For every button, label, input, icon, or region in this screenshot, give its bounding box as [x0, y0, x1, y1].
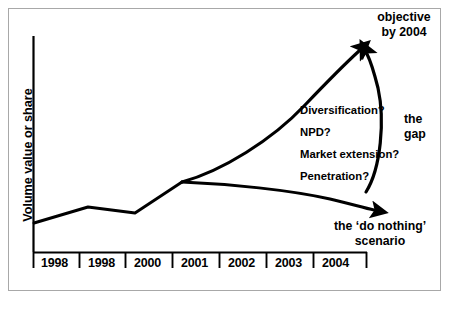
chart-page: Volume value or share 1998 1998 2000 200… [0, 0, 450, 310]
series-do-nothing-curve [182, 182, 374, 210]
strategy-label-market-extension: Market extension? [300, 148, 399, 161]
x-tick-label-7: 2004 [322, 256, 349, 271]
x-tick-label-5: 2002 [228, 256, 255, 271]
strategy-label-diversification: Diversification? [300, 104, 385, 117]
x-tick-label-1: 1998 [41, 256, 68, 271]
y-axis-label: Volume value or share [21, 75, 35, 235]
x-tick-label-4: 2001 [181, 256, 208, 271]
callout-do-nothing-line2: scenario [316, 234, 444, 249]
strategy-label-penetration: Penetration? [300, 170, 369, 183]
strategy-label-npd: NPD? [300, 126, 331, 139]
x-tick-label-3: 2000 [134, 256, 161, 271]
callout-objective-line2: by 2004 [364, 25, 444, 40]
x-tick-label-2: 1998 [88, 256, 115, 271]
callout-gap-line1: the [404, 112, 422, 127]
callout-gap-line2: gap [404, 127, 426, 142]
callout-objective-line1: objective [364, 10, 444, 25]
callout-do-nothing-line1: the ‘do nothing’ [316, 219, 444, 234]
series-historic-performance [34, 182, 182, 223]
x-tick-label-6: 2003 [275, 256, 302, 271]
